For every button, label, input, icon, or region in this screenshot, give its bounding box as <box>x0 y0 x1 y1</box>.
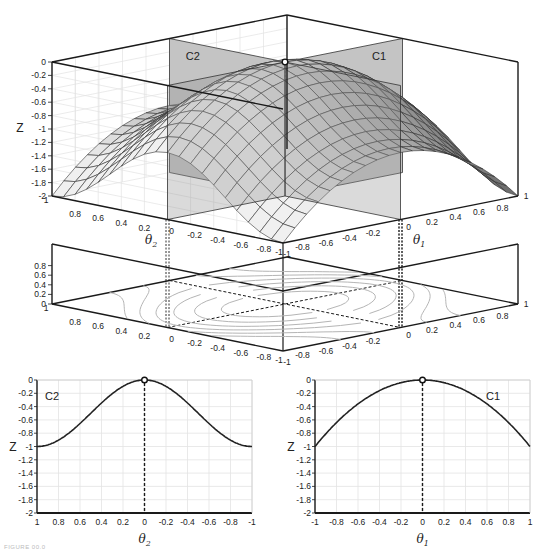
contour-line <box>421 285 430 323</box>
contour-line <box>188 331 374 333</box>
contour-line <box>221 298 243 314</box>
z-tick-label: -0.4 <box>31 84 46 94</box>
x-tick-label: -0.6 <box>351 517 366 527</box>
y-tick-label: -1.2 <box>296 455 311 465</box>
z-tick-label: -1 <box>38 124 46 134</box>
x-tick-label: 0 <box>142 517 147 527</box>
y-tick-label: -0.4 <box>18 402 33 412</box>
contour-z-tick-label: 0.8 <box>34 261 46 271</box>
figure-canvas: C2C10-0.2-0.4-0.6-0.8-1-1.2-1.4-1.6-1.8-… <box>0 0 546 555</box>
contour-theta2-tick-label: 0.2 <box>138 331 150 341</box>
contour-theta2-tick-label: -1 <box>283 357 291 367</box>
contour-z-tick-label: 0.4 <box>34 280 46 290</box>
contour-theta1-tick-label: 0.4 <box>450 320 462 330</box>
surface-patch <box>495 182 518 196</box>
x-tick-label: -1 <box>311 517 319 527</box>
y-tick-label: -0.2 <box>296 388 311 398</box>
theta1-tick-label: 0 <box>406 222 411 232</box>
max-point-marker <box>420 377 426 383</box>
surface-patch <box>459 159 482 169</box>
z-tick-label: 0 <box>41 57 46 67</box>
max-point-marker <box>142 377 148 383</box>
y-tick-label: -1 <box>303 442 311 452</box>
y-tick-label: -0.8 <box>18 428 33 438</box>
z-tick-label: -0.6 <box>31 97 46 107</box>
z-tick-label: -0.2 <box>31 70 46 80</box>
x-tick-label: -0.6 <box>202 517 217 527</box>
y-tick-label: 0 <box>306 375 311 385</box>
theta2-tick-label: 0.8 <box>69 209 81 219</box>
surface-plot-3d: C2C10-0.2-0.4-0.6-0.8-1-1.2-1.4-1.6-1.8-… <box>16 15 528 259</box>
y-tick-label: 0 <box>28 375 33 385</box>
z-tick-label: -1.4 <box>31 151 46 161</box>
y-tick-label: -1.6 <box>18 481 33 491</box>
x-tick-label: 1 <box>35 517 40 527</box>
theta1-tick-label: -0.6 <box>319 238 334 248</box>
contour-theta1-tick-label: 1 <box>524 299 529 309</box>
theta1-tick-label: 0.2 <box>426 217 438 227</box>
z-tick-label: -1.6 <box>31 164 46 174</box>
x-tick-label: -1 <box>248 517 256 527</box>
x-tick-label: -0.4 <box>180 517 195 527</box>
y-tick-label: -1.4 <box>296 468 311 478</box>
contour-line <box>327 293 349 309</box>
y-tick-label: -1.4 <box>18 468 33 478</box>
contour-theta2-tick-label: 0.4 <box>115 326 127 336</box>
x-tick-label: 0.4 <box>96 517 108 527</box>
theta1-tick-label: 1 <box>524 191 529 201</box>
y-tick-label: -1.2 <box>18 455 33 465</box>
contour-line <box>231 313 312 317</box>
contour-theta2-tick-label: 0.8 <box>69 317 81 327</box>
contour-theta2-tick-label: -0.4 <box>210 343 225 353</box>
contour-line <box>229 269 358 273</box>
figure-caption: FIGURE 00.0 <box>4 544 46 550</box>
contour-z-tick-label: 0.2 <box>34 289 46 299</box>
x-tick-label: 0.8 <box>503 517 515 527</box>
line-chart-c1: 0-0.2-0.4-0.6-0.8-1-1.2-1.4-1.6-1.8-2-1-… <box>287 375 532 548</box>
theta1-tick-label: -0.8 <box>295 242 310 252</box>
chart-label-c2: C2 <box>45 390 59 402</box>
theta2-tick-label: -0.6 <box>233 240 248 250</box>
theta1-tick-label: -0.2 <box>366 228 381 238</box>
x-axis-label: θ1 <box>417 532 429 548</box>
y-tick-label: -0.8 <box>296 428 311 438</box>
y-tick-label: -1 <box>25 442 33 452</box>
contour-line <box>195 298 217 320</box>
contour-line <box>140 286 149 324</box>
z-tick-label: -1.8 <box>31 178 46 188</box>
line-chart-c2: 0-0.2-0.4-0.6-0.8-1-1.2-1.4-1.6-1.8-210.… <box>9 375 256 548</box>
theta1-axis-label: θ1 <box>413 233 425 249</box>
y-tick-label: -2 <box>303 508 311 518</box>
contour-line <box>369 285 396 313</box>
contour-theta1-tick-label: -0.4 <box>342 341 357 351</box>
theta2-tick-label: 1 <box>44 195 49 205</box>
x-tick-label: -0.4 <box>372 517 387 527</box>
z-axis-label: Z <box>16 121 23 135</box>
contour-line <box>258 291 339 295</box>
x-tick-label: 1 <box>528 517 533 527</box>
contour-line <box>209 278 393 285</box>
contour-theta1-tick-label: -0.2 <box>366 336 381 346</box>
plane-label-c1: C1 <box>372 50 386 62</box>
y-tick-label: -0.6 <box>18 415 33 425</box>
z-tick-label: -0.8 <box>31 111 46 121</box>
contour-theta1-tick-label: 0.8 <box>497 311 509 321</box>
theta1-tick-label: -1 <box>275 247 283 257</box>
contour-theta2-tick-label: -0.2 <box>187 338 202 348</box>
contour-line <box>209 318 317 322</box>
contour-theta1-tick-label: -0.6 <box>319 346 334 356</box>
contour-line <box>156 289 192 326</box>
contour-line <box>353 289 375 311</box>
theta2-tick-label: 0.2 <box>138 223 150 233</box>
figure: C2C10-0.2-0.4-0.6-0.8-1-1.2-1.4-1.6-1.8-… <box>0 0 546 555</box>
contour-line <box>378 283 414 320</box>
theta2-tick-label: -0.8 <box>257 244 272 254</box>
y-tick-label: -2 <box>25 508 33 518</box>
x-tick-label: -0.2 <box>159 517 174 527</box>
contour-theta2-tick-label: 1 <box>44 303 49 313</box>
contour-theta1-tick-label: -1 <box>275 355 283 365</box>
y-axis-label: Z <box>287 440 294 454</box>
theta1-tick-label: 0.6 <box>473 207 485 217</box>
x-tick-label: 0 <box>420 517 425 527</box>
theta2-tick-label: 0 <box>169 226 174 236</box>
